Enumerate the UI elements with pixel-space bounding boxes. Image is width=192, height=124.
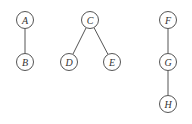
edges	[25, 28, 168, 96]
nodes: ABCDEFGH	[17, 12, 177, 113]
node-label: C	[87, 15, 94, 26]
node-h: H	[160, 96, 177, 113]
node-g: G	[160, 54, 177, 71]
node-e: E	[104, 54, 121, 71]
node-f: F	[160, 12, 177, 29]
forest-diagram: ABCDEFGH	[0, 0, 192, 124]
node-label: G	[164, 57, 171, 68]
node-label: D	[64, 57, 73, 68]
edge-c-e	[94, 28, 108, 55]
node-label: H	[163, 99, 172, 110]
node-label: F	[164, 15, 172, 26]
node-a: A	[17, 12, 34, 29]
node-label: E	[108, 57, 115, 68]
node-d: D	[61, 54, 78, 71]
node-label: B	[22, 57, 28, 68]
node-b: B	[17, 54, 34, 71]
node-c: C	[82, 12, 99, 29]
node-label: A	[21, 15, 29, 26]
edge-c-d	[73, 28, 86, 55]
